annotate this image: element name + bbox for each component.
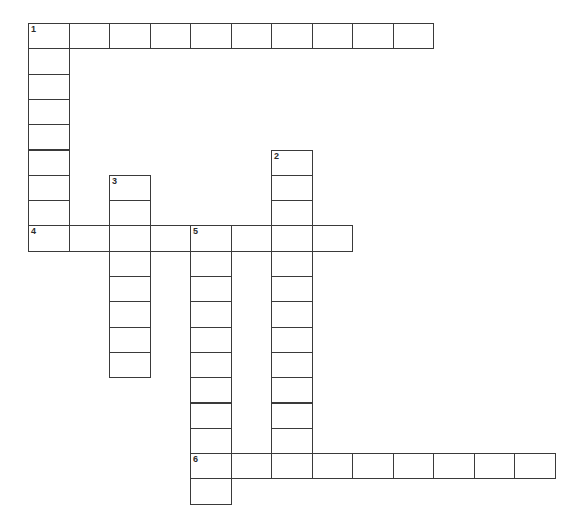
crossword-cell[interactable]: 1 [28,23,70,49]
crossword-cell[interactable] [190,428,232,454]
crossword-cell[interactable] [190,276,232,302]
crossword-cell[interactable] [393,453,435,479]
crossword-cell[interactable] [271,225,313,251]
cell-number-5: 5 [193,226,198,237]
crossword-cell[interactable] [271,352,313,378]
crossword-cell[interactable] [28,150,70,176]
crossword-cell[interactable] [271,175,313,201]
crossword-cell[interactable] [190,377,232,403]
crossword-cell[interactable] [109,251,151,277]
crossword-cell[interactable] [271,453,313,479]
crossword-cell[interactable] [312,453,354,479]
crossword-cell[interactable] [150,23,192,49]
crossword-cell[interactable] [109,352,151,378]
crossword-cell[interactable] [474,453,516,479]
crossword-cell[interactable] [190,327,232,353]
crossword-cell[interactable] [190,23,232,49]
crossword-cell[interactable] [109,301,151,327]
crossword-cell[interactable] [433,453,475,479]
cell-number-2: 2 [274,151,279,162]
crossword-cell[interactable] [190,301,232,327]
crossword-cell[interactable] [69,23,111,49]
crossword-grid[interactable]: 123456 [0,0,579,526]
crossword-cell[interactable] [393,23,435,49]
crossword-cell[interactable] [271,301,313,327]
crossword-cell[interactable] [109,276,151,302]
crossword-cell[interactable] [28,200,70,226]
crossword-cell[interactable] [271,200,313,226]
crossword-cell[interactable]: 5 [190,225,232,251]
crossword-cell[interactable] [28,74,70,100]
crossword-cell[interactable] [271,377,313,403]
crossword-cell[interactable] [28,99,70,125]
crossword-cell[interactable]: 6 [190,453,232,479]
cell-number-3: 3 [112,176,117,187]
crossword-cell[interactable] [271,251,313,277]
crossword-cell[interactable] [190,478,232,504]
crossword-cell[interactable] [271,23,313,49]
crossword-cell[interactable] [231,23,273,49]
cell-number-4: 4 [31,226,36,237]
crossword-cell[interactable]: 4 [28,225,70,251]
crossword-cell[interactable] [231,453,273,479]
crossword-cell[interactable]: 2 [271,150,313,176]
crossword-cell[interactable] [514,453,556,479]
crossword-cell[interactable] [28,48,70,74]
crossword-cell[interactable] [312,23,354,49]
crossword-cell[interactable] [190,403,232,429]
crossword-cell[interactable] [109,327,151,353]
crossword-cell[interactable] [109,225,151,251]
crossword-cell[interactable] [352,23,394,49]
crossword-cell[interactable] [271,403,313,429]
crossword-cell[interactable]: 3 [109,175,151,201]
crossword-puzzle: 123456 [0,0,579,526]
crossword-cell[interactable] [69,225,111,251]
crossword-cell[interactable] [109,200,151,226]
crossword-cell[interactable] [109,23,151,49]
crossword-cell[interactable] [190,251,232,277]
crossword-cell[interactable] [150,225,192,251]
cell-number-1: 1 [31,24,36,35]
crossword-cell[interactable] [352,453,394,479]
crossword-cell[interactable] [190,352,232,378]
crossword-cell[interactable] [28,124,70,150]
crossword-cell[interactable] [271,428,313,454]
crossword-cell[interactable] [28,175,70,201]
crossword-cell[interactable] [271,276,313,302]
crossword-cell[interactable] [312,225,354,251]
cell-number-6: 6 [193,454,198,465]
crossword-cell[interactable] [271,327,313,353]
crossword-cell[interactable] [231,225,273,251]
